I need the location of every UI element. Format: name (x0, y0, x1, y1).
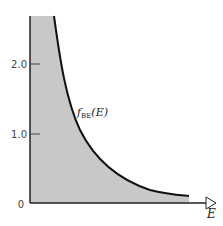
bose-einstein-chart: 2.0 1.0 0 fBE(E) E (0, 0, 223, 226)
y-tick-label-0: 0 (18, 199, 24, 210)
x-axis-label: E (206, 207, 216, 221)
y-tick-label-2: 2.0 (11, 59, 27, 70)
shaded-area (30, 16, 189, 203)
curve-label: fBE(E) (76, 106, 108, 120)
y-tick-label-1: 1.0 (11, 129, 27, 140)
